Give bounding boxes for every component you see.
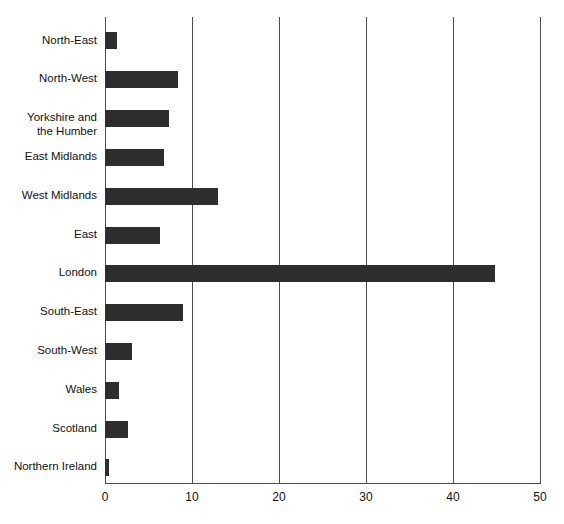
category-label: North-West: [0, 72, 97, 86]
x-tick-label: 50: [520, 490, 560, 504]
category-label: London: [0, 266, 97, 280]
category-label: Northern Ireland: [0, 460, 97, 474]
gridline-40: [453, 17, 454, 483]
bar-west-midlands: [105, 188, 218, 205]
bar-yorkshire-and-the-humber: [105, 110, 169, 127]
bar-wales: [105, 382, 119, 399]
bar-north-east: [105, 32, 117, 49]
x-axis-line: [105, 483, 541, 484]
x-tick-label: 40: [433, 490, 473, 504]
category-label: Scotland: [0, 422, 97, 436]
gridline-30: [366, 17, 367, 483]
gridline-10: [192, 17, 193, 483]
bar-east: [105, 227, 160, 244]
category-label: Wales: [0, 383, 97, 397]
gridline-20: [279, 17, 280, 483]
plot-area: [105, 17, 540, 483]
x-tick-label: 30: [346, 490, 386, 504]
x-tick-label: 20: [259, 490, 299, 504]
bar-south-east: [105, 304, 183, 321]
bar-east-midlands: [105, 149, 164, 166]
x-tick-label: 10: [172, 490, 212, 504]
bar-northern-ireland: [105, 459, 109, 476]
bar-south-west: [105, 343, 132, 360]
category-label: West Midlands: [0, 189, 97, 203]
gridline-50: [540, 17, 541, 483]
category-label: East: [0, 228, 97, 242]
category-label: East Midlands: [0, 150, 97, 164]
bar-scotland: [105, 421, 128, 438]
category-label: Yorkshire and the Humber: [0, 111, 97, 138]
category-label: South-East: [0, 305, 97, 319]
bar-chart: North-East North-West Yorkshire and the …: [0, 0, 564, 524]
category-label: South-West: [0, 344, 97, 358]
category-label: North-East: [0, 34, 97, 48]
bar-north-west: [105, 71, 178, 88]
x-tick-label: 0: [85, 490, 125, 504]
bar-london: [105, 265, 495, 282]
